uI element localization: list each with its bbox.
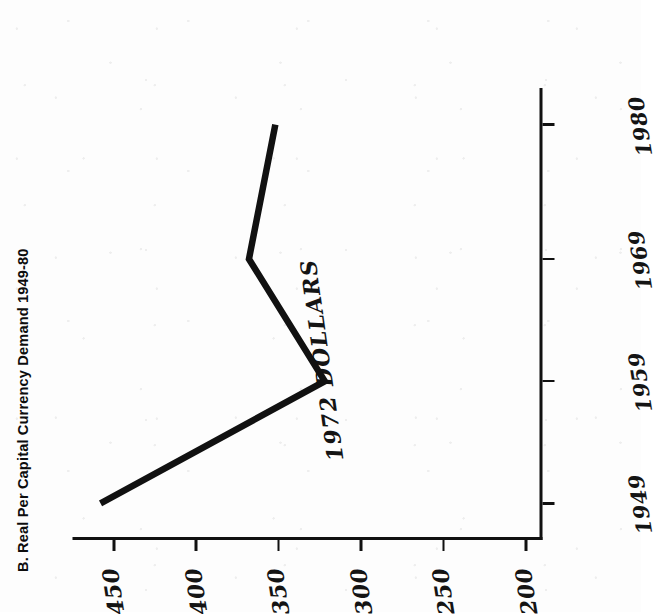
y-tick-label: 200 xyxy=(508,565,541,616)
y-tick xyxy=(277,540,280,551)
plot-area: 1972 DOLLARS 200250300350400450 19491959… xyxy=(72,88,542,540)
x-tick xyxy=(542,380,554,383)
x-tick xyxy=(542,123,554,126)
y-tick xyxy=(359,540,362,551)
x-tick-label: 1969 xyxy=(622,228,656,292)
x-tick-label: 1949 xyxy=(622,473,656,537)
y-tick xyxy=(194,540,197,551)
y-tick-label: 300 xyxy=(344,565,377,616)
y-tick xyxy=(112,540,115,551)
y-tick-label: 450 xyxy=(96,565,129,616)
x-tick xyxy=(542,502,554,505)
y-tick-label: 350 xyxy=(261,565,294,616)
series-polyline xyxy=(100,125,324,504)
x-tick-label: 1980 xyxy=(622,94,656,158)
y-tick-label: 250 xyxy=(426,565,459,616)
data-series-line xyxy=(72,88,542,540)
x-tick xyxy=(542,258,554,261)
y-tick xyxy=(524,540,527,551)
x-tick-label: 1959 xyxy=(622,351,656,415)
y-tick-label: 400 xyxy=(179,565,212,616)
chart-title: B. Real Per Capital Currency Demand 1949… xyxy=(14,248,30,572)
y-tick xyxy=(442,540,445,551)
